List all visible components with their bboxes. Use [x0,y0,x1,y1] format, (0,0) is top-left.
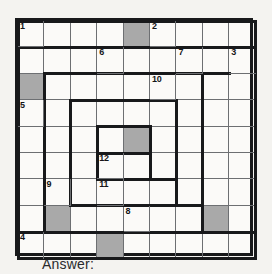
grid-cell-r8-c1[interactable] [18,206,44,232]
grid-cell-r1-c7[interactable] [176,21,202,47]
grid-cell-r4-c6[interactable] [150,100,176,126]
grid-cell-r9-c2[interactable] [44,232,70,258]
grid-cell-r4-c5[interactable] [124,100,150,126]
grid-cell-r4-c8[interactable] [203,100,229,126]
grid-cell-r3-c1[interactable] [18,74,44,100]
grid-cell-r5-c7[interactable] [176,127,202,153]
grid-cell-r9-c4[interactable] [97,232,123,258]
grid-cell-r2-c3[interactable] [71,47,97,73]
grid-cell-r5-c9[interactable] [229,127,255,153]
cage-border-horizontal-0 [17,20,258,23]
grid-cell-r1-c8[interactable] [203,21,229,47]
grid-cell-r7-c1[interactable] [18,179,44,205]
grid-cell-r2-c5[interactable] [124,47,150,73]
cage-border-horizontal-9 [17,257,258,260]
grid-cell-r8-c3[interactable] [71,206,97,232]
grid-cell-r2-c1[interactable] [18,47,44,73]
cage-border-vertical-1 [43,72,46,233]
grid-cell-r3-c3[interactable] [71,74,97,100]
grid-cell-r5-c4[interactable] [97,127,123,153]
grid-cell-r7-c6[interactable] [150,179,176,205]
grid-cell-r5-c5[interactable] [124,127,150,153]
grid-cell-r4-c9[interactable] [229,100,255,126]
puzzle-page: 126731051291184 Answer: [0,0,272,274]
grid-cell-r7-c7[interactable] [176,179,202,205]
grid-cell-r6-c9[interactable] [229,153,255,179]
grid-cell-r6-c1[interactable] [18,153,44,179]
grid-cell-r7-c2[interactable]: 9 [44,179,70,205]
grid-cell-r8-c6[interactable] [150,206,176,232]
grid-cell-r5-c8[interactable] [203,127,229,153]
grid-cell-r9-c5[interactable] [124,232,150,258]
grid-cell-r2-c9[interactable]: 3 [229,47,255,73]
cage-border-vertical-0 [17,20,20,261]
grid-cell-r7-c5[interactable] [124,179,150,205]
cage-border-vertical-4 [149,125,152,181]
grid-cell-r7-c8[interactable] [203,179,229,205]
grid-cell-r9-c3[interactable] [71,232,97,258]
grid-cell-r6-c2[interactable] [44,153,70,179]
clue-number-12: 12 [99,153,109,164]
grid-cell-r3-c2[interactable] [44,74,70,100]
clue-number-7: 7 [178,47,183,58]
grid-cell-r6-c4[interactable]: 12 [97,153,123,179]
grid-cell-r8-c9[interactable] [229,206,255,232]
grid-cell-r6-c3[interactable] [71,153,97,179]
grid-cell-r9-c1[interactable]: 4 [18,232,44,258]
grid-cell-r9-c8[interactable] [203,232,229,258]
grid-cell-r7-c3[interactable] [71,179,97,205]
grid-cell-r5-c2[interactable] [44,127,70,153]
grid-cell-r3-c6[interactable]: 10 [150,74,176,100]
grid-cell-r1-c2[interactable] [44,21,70,47]
grid-cell-r1-c3[interactable] [71,21,97,47]
grid-cell-r3-c7[interactable] [176,74,202,100]
grid-cell-r8-c8[interactable] [203,206,229,232]
grid-cell-r9-c7[interactable] [176,232,202,258]
grid-cell-r8-c4[interactable] [97,206,123,232]
grid-cell-r9-c6[interactable] [150,232,176,258]
clue-number-5: 5 [20,100,25,111]
grid-cell-r5-c6[interactable] [150,127,176,153]
grid-cell-r6-c5[interactable] [124,153,150,179]
grid-cell-r6-c7[interactable] [176,153,202,179]
grid-cell-r2-c2[interactable] [44,47,70,73]
puzzle-grid[interactable]: 126731051291184 [15,18,253,256]
clue-number-8: 8 [126,206,131,217]
grid-cell-r2-c4[interactable]: 6 [97,47,123,73]
grid-cell-r5-c1[interactable] [18,127,44,153]
cage-border-horizontal-1 [17,46,258,49]
grid-cell-r3-c9[interactable] [229,74,255,100]
grid-cell-r3-c5[interactable] [124,74,150,100]
grid-cell-r4-c4[interactable] [97,100,123,126]
clue-number-11: 11 [99,179,108,190]
grid-cell-r6-c8[interactable] [203,153,229,179]
grid-cell-r1-c9[interactable] [229,21,255,47]
cage-border-vertical-6 [201,72,204,233]
grid-cell-r1-c4[interactable] [97,21,123,47]
grid-cell-r2-c6[interactable] [150,47,176,73]
grid-cell-r8-c7[interactable] [176,206,202,232]
grid-cell-r7-c4[interactable]: 11 [97,179,123,205]
grid-cell-r8-c5[interactable]: 8 [124,206,150,232]
clue-number-9: 9 [46,179,51,190]
grid-cell-r3-c8[interactable] [203,74,229,100]
grid-cell-r3-c4[interactable] [97,74,123,100]
grid-cell-r4-c1[interactable]: 5 [18,100,44,126]
puzzle-grid-container: 126731051291184 [15,18,253,256]
grid-cell-r4-c2[interactable] [44,100,70,126]
grid-cell-r2-c7[interactable]: 7 [176,47,202,73]
clue-number-10: 10 [152,74,162,85]
grid-cell-r5-c3[interactable] [71,127,97,153]
cage-border-vertical-5 [175,99,178,208]
grid-cell-r2-c8[interactable] [203,47,229,73]
clue-number-2: 2 [152,21,157,32]
grid-cell-r9-c9[interactable] [229,232,255,258]
grid-cell-r8-c2[interactable] [44,206,70,232]
grid-cell-r1-c6[interactable]: 2 [150,21,176,47]
grid-cell-r1-c1[interactable]: 1 [18,21,44,47]
grid-cell-r7-c9[interactable] [229,179,255,205]
grid-cell-r6-c6[interactable] [150,153,176,179]
grid-cell-r4-c7[interactable] [176,100,202,126]
grid-cell-r4-c3[interactable] [71,100,97,126]
grid-cell-r1-c5[interactable] [124,21,150,47]
